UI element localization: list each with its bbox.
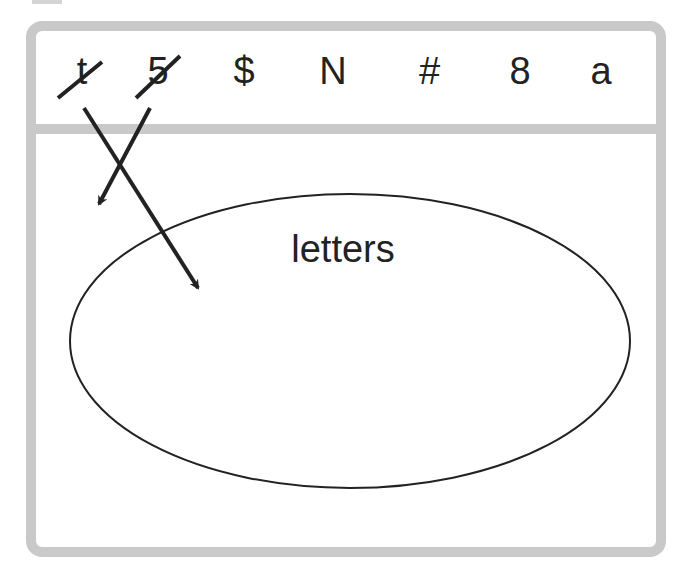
strike-5-icon [136, 56, 180, 98]
diagram-lines [0, 0, 678, 569]
set-label: letters [291, 228, 394, 271]
strike-t-icon [58, 62, 102, 98]
arrow-outside-set-icon [99, 108, 150, 204]
